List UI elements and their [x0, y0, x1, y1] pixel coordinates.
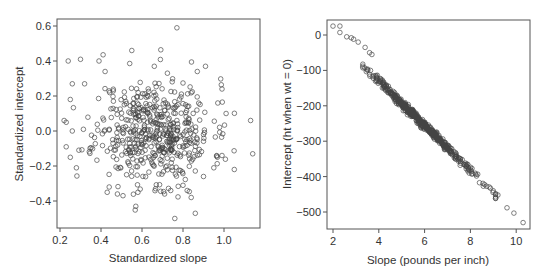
data-point [195, 69, 200, 74]
y-tick-label: 0.0 [36, 125, 51, 137]
data-point [64, 145, 69, 150]
data-point [201, 174, 206, 179]
data-point [115, 192, 120, 197]
data-point [70, 129, 75, 134]
data-point [179, 111, 184, 116]
data-point [183, 177, 188, 182]
data-point [216, 101, 221, 106]
data-point [232, 149, 237, 154]
data-point [173, 216, 178, 221]
x-tick-label: 8 [467, 235, 473, 247]
data-point [179, 92, 184, 97]
data-point [75, 174, 80, 179]
y-tick-label: 0.6 [36, 20, 51, 32]
x-tick-label: 1.0 [216, 234, 231, 246]
data-point [124, 172, 129, 177]
right-y-axis-label: Intercept (ht when wt = 0) [281, 59, 293, 189]
data-point [129, 169, 134, 174]
y-tick-label: −0.2 [29, 160, 51, 172]
data-point [203, 64, 208, 69]
data-point [222, 123, 227, 128]
data-point [521, 220, 526, 225]
x-tick-label: 0.8 [175, 234, 190, 246]
data-point [119, 116, 124, 121]
x-tick-label: 2 [330, 235, 336, 247]
right-y-axis: −500−400−300−200−1000 [296, 29, 327, 218]
data-point [78, 57, 83, 62]
data-point [107, 185, 112, 190]
data-point [512, 211, 517, 216]
left-panel: 0.20.40.60.81.0 −0.4−0.20.00.20.40.6 Sta… [13, 19, 260, 264]
right-x-axis: 246810 [330, 229, 522, 247]
right-panel: 246810 −500−400−300−200−1000 Slope (poun… [281, 20, 530, 266]
data-point [135, 183, 140, 188]
data-point [212, 119, 217, 124]
data-point [159, 48, 164, 53]
data-point [248, 118, 253, 123]
data-point [165, 71, 170, 76]
data-point [157, 172, 162, 177]
figure: 0.20.40.60.81.0 −0.4−0.20.00.20.40.6 Sta… [0, 0, 547, 276]
y-tick-label: 0.2 [36, 90, 51, 102]
data-point [338, 24, 343, 29]
data-point [212, 166, 217, 171]
data-point [130, 48, 135, 53]
data-point [138, 80, 143, 85]
data-point [70, 82, 75, 87]
y-tick-label: −400 [296, 171, 321, 183]
data-point [66, 59, 71, 64]
data-point [193, 148, 198, 153]
data-point [356, 40, 361, 45]
data-point [181, 81, 186, 86]
data-point [189, 60, 194, 65]
data-point [220, 100, 225, 105]
data-point [129, 86, 134, 91]
data-point [182, 151, 187, 156]
data-point [77, 148, 82, 153]
data-point [223, 157, 228, 162]
data-point [170, 77, 175, 82]
data-point [71, 105, 76, 110]
data-point [160, 87, 165, 92]
y-tick-label: −100 [296, 64, 321, 76]
data-point [232, 167, 237, 172]
x-tick-label: 6 [422, 235, 428, 247]
data-point [82, 82, 87, 87]
data-point [166, 117, 171, 122]
data-point [97, 59, 102, 64]
data-point [101, 53, 106, 58]
data-point [152, 64, 157, 69]
data-point [203, 110, 208, 115]
left-x-axis: 0.20.40.60.81.0 [52, 228, 231, 246]
data-point [135, 173, 140, 178]
data-point [120, 153, 125, 158]
y-tick-label: −300 [296, 135, 321, 147]
data-point [505, 206, 510, 211]
data-point [111, 99, 116, 104]
y-tick-label: 0.4 [36, 55, 51, 67]
data-point [119, 97, 124, 102]
data-point [147, 170, 152, 175]
left-x-axis-label: Standardized slope [109, 252, 207, 264]
x-tick-label: 0.4 [93, 234, 108, 246]
left-y-axis: −0.4−0.20.00.20.40.6 [29, 20, 57, 207]
data-point [81, 127, 86, 132]
data-point [197, 118, 202, 123]
data-point [93, 141, 98, 146]
data-point [224, 111, 229, 116]
y-tick-label: −200 [296, 100, 321, 112]
data-point [129, 174, 134, 179]
data-point [187, 164, 192, 169]
right-x-axis-label: Slope (pounds per inch) [367, 254, 489, 266]
data-point [331, 24, 336, 29]
y-tick-label: −500 [296, 206, 321, 218]
data-point [141, 174, 146, 179]
data-point [109, 115, 114, 120]
x-tick-label: 0.6 [134, 234, 149, 246]
data-point [100, 143, 105, 148]
data-point [129, 119, 134, 124]
data-point [122, 90, 127, 95]
x-tick-label: 10 [510, 235, 522, 247]
data-point [86, 115, 91, 120]
data-point [138, 187, 143, 192]
